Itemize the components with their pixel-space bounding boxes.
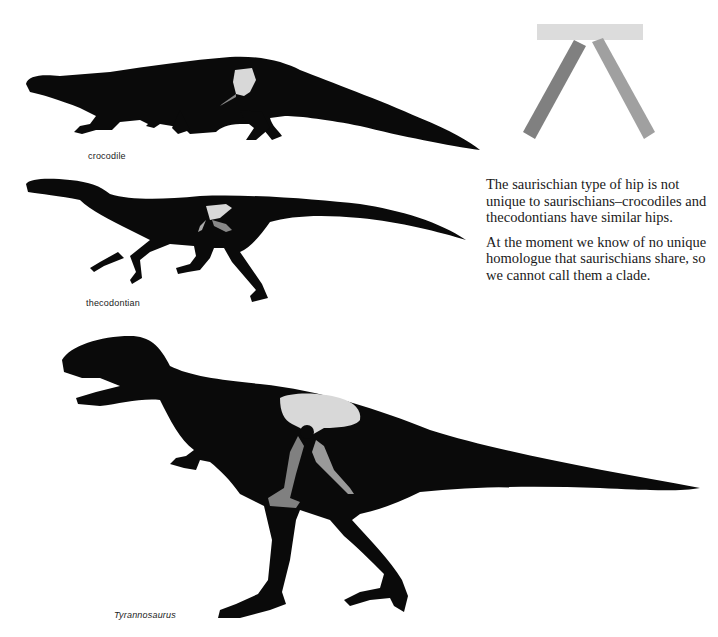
paragraph-2: At the moment we know of no unique homol… [486, 234, 718, 284]
hip-diagram [0, 0, 718, 637]
paragraph-1: The saurischian type of hip is not uniqu… [486, 176, 718, 226]
hip-schematic [523, 24, 655, 139]
thecodontian-silhouette [26, 179, 466, 302]
thecodontian-caption: thecodontian [86, 298, 140, 308]
tyrannosaurus-silhouette [62, 336, 700, 618]
tyrannosaurus-caption: Tyrannosaurus [114, 610, 176, 620]
crocodile-silhouette [26, 57, 480, 150]
crocodile-caption: crocodile [88, 151, 126, 161]
explanatory-text: The saurischian type of hip is not uniqu… [486, 176, 718, 291]
